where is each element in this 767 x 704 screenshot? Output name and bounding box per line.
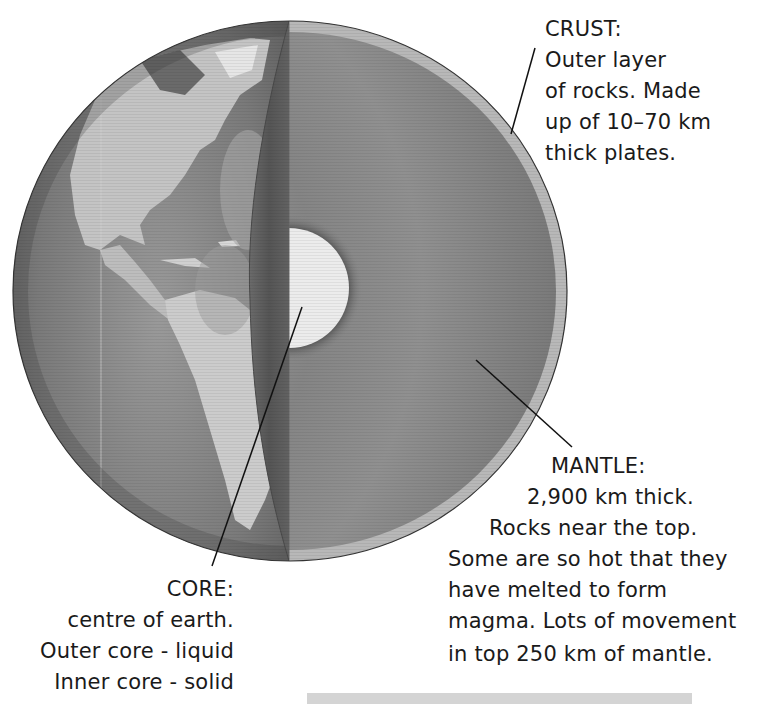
bottom-gray-bar — [307, 693, 692, 704]
crust-pointer-line — [511, 48, 535, 134]
core-desc-line: centre of earth. — [40, 605, 234, 636]
mantle-desc-line: Some are so hot that they — [448, 544, 766, 575]
mantle-title: MANTLE: — [551, 451, 767, 482]
mantle-desc-line: in top 250 km of mantle. — [448, 639, 766, 670]
mantle-desc-line: 2,900 km thick. — [527, 482, 767, 513]
crust-desc-line: thick plates. — [545, 138, 711, 169]
core-title: CORE: — [40, 574, 234, 605]
crust-title: CRUST: — [545, 14, 711, 45]
crust-desc-line: up of 10–70 km — [545, 107, 711, 138]
core-desc-line: Outer core - liquid — [40, 636, 234, 667]
core-desc-line: Inner core - solid — [40, 667, 234, 698]
mantle-label: MANTLE: 2,900 km thick. Rocks near the t… — [448, 451, 766, 668]
crust-desc-line: of rocks. Made — [545, 76, 711, 107]
mantle-desc-line: Rocks near the top. — [489, 513, 767, 544]
mantle-desc-line: magma. Lots of movement — [448, 606, 766, 637]
crust-label: CRUST: Outer layer of rocks. Made up of … — [545, 14, 711, 169]
mantle-desc-line: have melted to form — [448, 575, 766, 606]
core-label: CORE: centre of earth. Outer core - liqu… — [40, 574, 234, 698]
crust-desc-line: Outer layer — [545, 45, 711, 76]
